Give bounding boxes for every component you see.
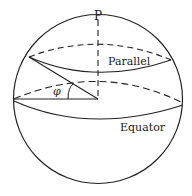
equator-label: Equator — [120, 121, 166, 134]
latitude-radius — [29, 57, 98, 99]
angle-arc — [68, 84, 73, 99]
sphere-diagram: P Parallel Equator φ — [0, 0, 192, 196]
parallel-label: Parallel — [108, 55, 151, 68]
equator-front-arc — [14, 101, 183, 119]
angle-label: φ — [53, 85, 61, 98]
pole-label: P — [94, 9, 102, 23]
